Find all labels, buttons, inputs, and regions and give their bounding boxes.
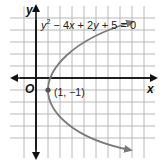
parabola-curve [48,22,132,90]
vertex-label: (1, −1) [54,86,85,98]
vertex-point [45,87,50,92]
x-axis-label: x [146,82,155,96]
y-axis-label: y [25,3,34,17]
parabola-graph: y x O y2 − 4x + 2y + 5 = 0 (1, −1) [0,0,165,164]
origin-label: O [25,82,35,96]
equation-label: y2 − 4x + 2y + 5 = 0 [40,18,136,31]
